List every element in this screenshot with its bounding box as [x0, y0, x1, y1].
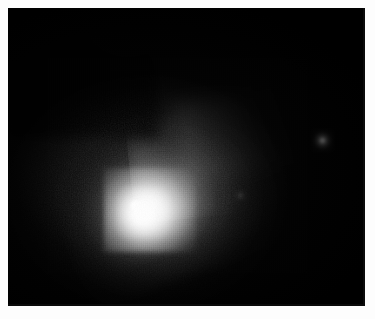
frame-edge-right — [363, 8, 365, 306]
image-caption — [8, 307, 365, 319]
frame-edge-bottom — [8, 304, 365, 306]
coma-lowerleft-cutoff — [8, 8, 158, 138]
comet-ccd-frame — [8, 8, 365, 306]
comet-image-page — [0, 0, 375, 319]
